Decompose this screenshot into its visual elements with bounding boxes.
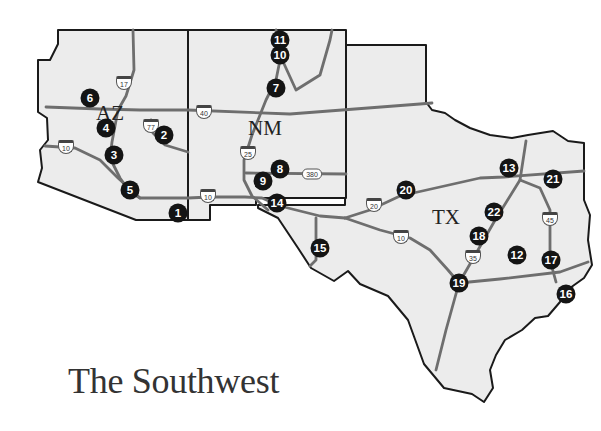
map-marker-17[interactable]: 17 (542, 251, 561, 270)
map-marker-16[interactable]: 16 (557, 285, 576, 304)
map-marker-14[interactable]: 14 (268, 194, 287, 213)
map-marker-12[interactable]: 12 (508, 246, 527, 265)
map-marker-11[interactable]: 11 (271, 31, 290, 50)
map-marker-2[interactable]: 2 (155, 126, 174, 145)
map-marker-3[interactable]: 3 (105, 146, 124, 165)
map-marker-9[interactable]: 9 (254, 172, 273, 191)
map-marker-20[interactable]: 20 (397, 181, 416, 200)
map-marker-6[interactable]: 6 (81, 89, 100, 108)
map-marker-15[interactable]: 15 (311, 239, 330, 258)
us-route-shield-380: 380 (302, 169, 322, 180)
state-label-tx: TX (432, 207, 460, 228)
map-marker-13[interactable]: 13 (500, 159, 519, 178)
map-title: The Southwest (68, 360, 279, 402)
map-marker-22[interactable]: 22 (485, 203, 504, 222)
map-marker-5[interactable]: 5 (121, 181, 140, 200)
state-label-nm: NM (248, 118, 282, 139)
map-marker-7[interactable]: 7 (267, 79, 286, 98)
map-marker-19[interactable]: 19 (450, 274, 469, 293)
map-marker-1[interactable]: 1 (169, 204, 188, 223)
map-marker-8[interactable]: 8 (271, 160, 290, 179)
map-marker-18[interactable]: 18 (470, 227, 489, 246)
map-marker-21[interactable]: 21 (544, 170, 563, 189)
map-marker-4[interactable]: 4 (97, 119, 116, 138)
